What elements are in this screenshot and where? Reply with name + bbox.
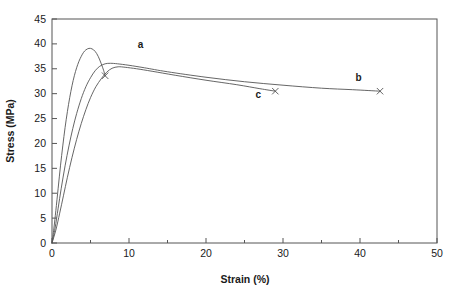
chart-svg: 01020304050 051015202530354045 abc Strai… (0, 0, 452, 294)
y-axis-title: Stress (MPa) (4, 99, 16, 163)
x-tick-label: 20 (200, 247, 212, 259)
x-tick-label: 0 (49, 247, 55, 259)
curve-label-a: a (138, 39, 144, 50)
y-tick-label: 30 (34, 87, 46, 99)
curve-label-b: b (355, 72, 361, 83)
y-tick-label: 40 (34, 37, 46, 49)
stress-strain-chart: 01020304050 051015202530354045 abc Strai… (0, 0, 452, 294)
curve-label-c: c (256, 89, 262, 100)
y-tick-label: 35 (34, 62, 46, 74)
x-axis-title: Strain (%) (220, 273, 269, 285)
x-tick-label: 40 (354, 247, 366, 259)
y-tick-label: 5 (40, 212, 46, 224)
x-tick-label: 50 (431, 247, 443, 259)
y-tick-label: 0 (40, 237, 46, 249)
y-tick-label: 45 (34, 13, 46, 25)
chart-background (0, 0, 452, 294)
y-tick-label: 10 (34, 187, 46, 199)
y-tick-label: 15 (34, 162, 46, 174)
y-tick-label: 20 (34, 137, 46, 149)
x-tick-label: 30 (277, 247, 289, 259)
x-tick-label: 10 (123, 247, 135, 259)
y-tick-label: 25 (34, 112, 46, 124)
